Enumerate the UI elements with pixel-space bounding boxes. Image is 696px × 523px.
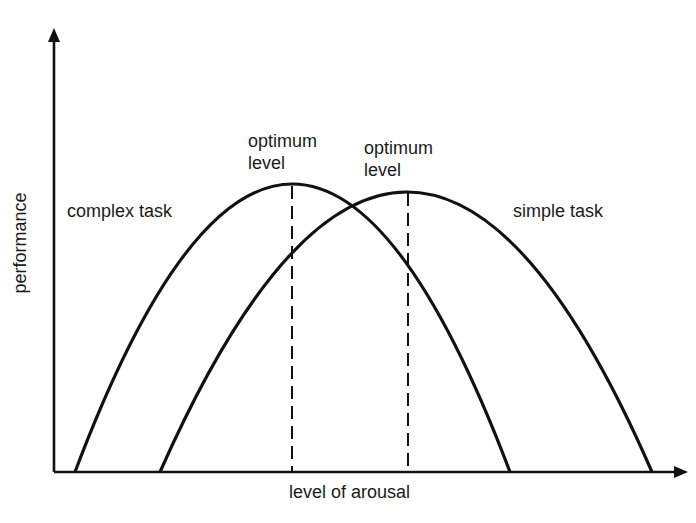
optimum-level-label-simple: optimum level	[364, 137, 433, 181]
simple-task-curve	[160, 192, 652, 472]
complex-task-label: complex task	[67, 201, 172, 222]
optimum-label-line2: level	[248, 152, 317, 174]
simple-task-label: simple task	[513, 201, 603, 222]
y-axis-label: performance	[10, 192, 31, 293]
optimum-level-label-complex: optimum level	[248, 130, 317, 174]
y-axis-arrow-icon	[48, 28, 60, 42]
optimum-label-line1: optimum	[248, 130, 317, 152]
optimum-label-line1: optimum	[364, 137, 433, 159]
arousal-performance-diagram	[0, 0, 696, 523]
x-axis-label: level of arousal	[289, 482, 410, 503]
x-axis-arrow-icon	[674, 466, 688, 478]
optimum-label-line2: level	[364, 159, 433, 181]
